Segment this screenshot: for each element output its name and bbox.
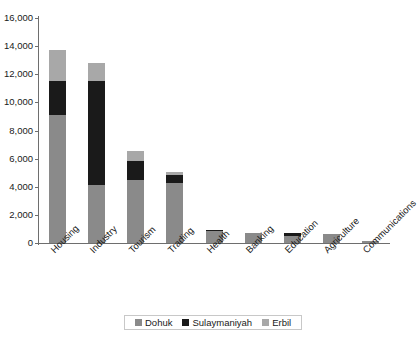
legend-item[interactable]: Dohuk bbox=[135, 318, 172, 328]
legend-label: Erbil bbox=[272, 318, 291, 328]
x-axis-tick-label: Communications bbox=[361, 198, 418, 255]
x-axis-tick-label: Trading bbox=[166, 225, 196, 255]
chart-legend: DohukSulaymaniyahErbil bbox=[124, 315, 302, 330]
x-axis-tick-label: Tourism bbox=[127, 224, 158, 255]
legend-item[interactable]: Sulaymaniyah bbox=[182, 318, 252, 328]
legend-item[interactable]: Erbil bbox=[262, 318, 291, 328]
legend-label: Dohuk bbox=[145, 318, 172, 328]
x-axis-tick-label: Housing bbox=[49, 223, 81, 255]
x-axis-tick-label: Agriculture bbox=[322, 216, 361, 255]
x-axis-tick-label: Health bbox=[205, 229, 231, 255]
x-axis-tick-label: Industry bbox=[88, 224, 119, 255]
x-axis-tick-label: Education bbox=[283, 218, 320, 255]
legend-swatch-icon bbox=[262, 319, 269, 326]
legend-swatch-icon bbox=[135, 319, 142, 326]
legend-swatch-icon bbox=[182, 319, 189, 326]
legend-label: Sulaymaniyah bbox=[192, 318, 252, 328]
x-axis-tick-label: Banking bbox=[244, 224, 275, 255]
